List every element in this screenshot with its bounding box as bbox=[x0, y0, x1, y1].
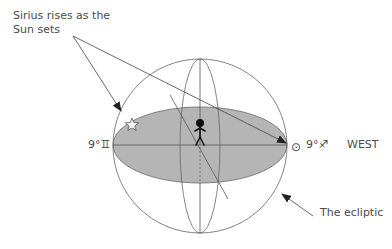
sun-icon: ⊙ bbox=[291, 140, 301, 154]
sirius-caption: Sirius rises as the Sun sets bbox=[13, 9, 123, 37]
arrow-to-sirius bbox=[73, 36, 121, 111]
ecliptic-label: The ecliptic bbox=[320, 206, 383, 220]
west-direction-label: WEST bbox=[347, 138, 379, 152]
east-zodiac-marker: 9°♊ bbox=[88, 138, 110, 152]
west-zodiac-marker: 9°♐ bbox=[306, 138, 328, 152]
arrow-to-ecliptic bbox=[282, 194, 313, 216]
